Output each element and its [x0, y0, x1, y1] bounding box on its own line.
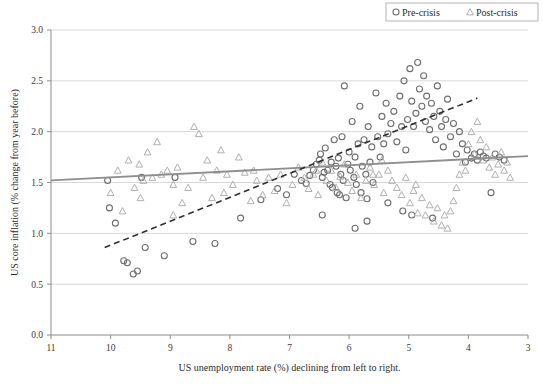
data-point-circle — [440, 144, 446, 150]
data-point-circle — [369, 144, 375, 150]
data-point-triangle — [315, 191, 322, 197]
data-point-triangle — [410, 187, 417, 193]
x-tick-label: 6 — [347, 343, 352, 353]
data-point-triangle — [450, 197, 457, 203]
data-point-circle — [365, 124, 371, 130]
data-point-circle — [459, 141, 465, 147]
data-point-triangle — [380, 189, 387, 195]
data-point-triangle — [185, 184, 192, 190]
data-point-triangle — [283, 199, 290, 205]
data-point-circle — [409, 212, 415, 218]
data-point-circle — [439, 124, 445, 130]
data-point-triangle — [114, 167, 121, 173]
data-point-circle — [331, 137, 337, 143]
data-point-triangle — [453, 184, 460, 190]
y-axis-title: US core inflation (% change from year be… — [9, 89, 21, 276]
data-point-triangle — [474, 118, 481, 124]
data-point-circle — [379, 113, 385, 119]
data-point-circle — [434, 83, 440, 89]
data-point-circle — [433, 137, 439, 143]
data-point-circle — [388, 121, 394, 127]
data-point-triangle — [209, 194, 216, 200]
data-point-triangle — [434, 205, 441, 211]
data-point-circle — [352, 225, 358, 231]
data-point-triangle — [456, 171, 463, 177]
data-point-circle — [428, 100, 434, 106]
x-tick-label: 11 — [46, 343, 55, 353]
data-point-triangle — [447, 208, 454, 214]
data-point-triangle — [384, 167, 391, 173]
x-tick-label: 4 — [466, 343, 471, 353]
data-point-triangle — [465, 140, 472, 146]
data-point-triangle — [221, 189, 228, 195]
data-point-triangle — [218, 147, 225, 153]
data-point-triangle — [393, 184, 400, 190]
chart-legend[interactable]: Pre-crisisPost-crisis — [386, 3, 538, 21]
data-point-circle — [416, 86, 422, 92]
data-point-triangle — [402, 174, 409, 180]
data-point-circle — [450, 121, 456, 127]
data-point-triangle — [174, 164, 181, 170]
data-point-triangle — [495, 161, 502, 167]
data-point-triangle — [370, 171, 377, 177]
data-point-triangle — [144, 149, 151, 155]
data-point-triangle — [179, 199, 186, 205]
data-point-circle — [415, 60, 421, 66]
data-point-circle — [399, 124, 405, 130]
data-point-circle — [421, 73, 427, 79]
data-point-triangle — [170, 212, 177, 218]
data-point-circle — [394, 139, 400, 145]
data-point-circle — [397, 93, 403, 99]
data-point-circle — [319, 212, 325, 218]
data-point-triangle — [191, 123, 198, 129]
x-tick-label: 8 — [228, 343, 233, 353]
data-point-triangle — [204, 157, 211, 163]
data-point-circle — [161, 253, 167, 259]
data-point-triangle — [137, 194, 144, 200]
x-tick-label: 10 — [106, 343, 116, 353]
data-point-triangle — [125, 157, 132, 163]
data-point-triangle — [200, 174, 207, 180]
data-point-circle — [383, 100, 389, 106]
data-point-circle — [322, 145, 328, 151]
scatter-chart: 0.00.51.01.52.02.53.011109876543 US unem… — [0, 0, 543, 384]
data-point-triangle — [441, 212, 448, 218]
data-point-triangle — [486, 164, 493, 170]
data-point-triangle — [398, 191, 405, 197]
data-point-triangle — [131, 184, 138, 190]
data-point-circle — [190, 238, 196, 244]
data-point-circle — [400, 208, 406, 214]
data-point-circle — [352, 154, 358, 160]
data-point-circle — [238, 215, 244, 221]
data-point-triangle — [418, 194, 425, 200]
chart-canvas: 0.00.51.01.52.02.53.011109876543 US unem… — [0, 0, 543, 384]
legend-label: Post-crisis — [476, 7, 518, 18]
data-point-circle — [357, 103, 363, 109]
data-point-triangle — [259, 191, 266, 197]
data-point-circle — [381, 141, 387, 147]
x-tick-label: 9 — [168, 343, 173, 353]
data-point-triangle — [492, 171, 499, 177]
x-tick-label: 5 — [406, 343, 411, 353]
data-point-triangle — [247, 197, 254, 203]
data-point-triangle — [107, 189, 114, 195]
data-point-circle — [172, 174, 178, 180]
data-point-circle — [335, 155, 341, 161]
data-point-circle — [341, 83, 347, 89]
data-point-circle — [364, 218, 370, 224]
data-point-triangle — [462, 167, 469, 173]
y-tick-label: 3.0 — [31, 25, 43, 35]
data-point-circle — [419, 103, 425, 109]
data-point-triangle — [164, 167, 171, 173]
data-point-circle — [134, 268, 140, 274]
data-point-circle — [488, 190, 494, 196]
data-point-triangle — [477, 136, 484, 142]
y-tick-label: 2.5 — [31, 76, 43, 86]
data-point-circle — [212, 241, 218, 247]
data-point-circle — [106, 205, 112, 211]
data-point-circle — [445, 96, 451, 102]
data-point-triangle — [154, 138, 161, 144]
data-point-circle — [318, 151, 324, 157]
data-point-circle — [142, 245, 148, 251]
legend-label: Pre-crisis — [402, 7, 440, 18]
